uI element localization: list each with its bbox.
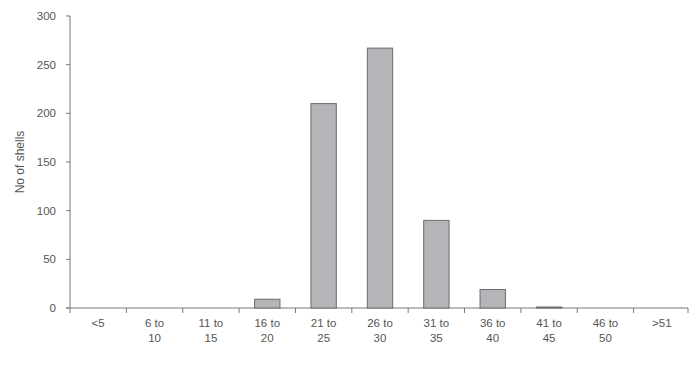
y-tick-label: 50 (43, 253, 56, 265)
x-tick-label: 45 (543, 332, 556, 344)
x-tick-label: 30 (374, 332, 387, 344)
x-tick-label: 10 (148, 332, 161, 344)
y-tick-label: 250 (37, 59, 56, 71)
x-tick-label: 25 (317, 332, 330, 344)
y-axis-title: No of shells (13, 131, 27, 194)
y-tick-label: 0 (50, 302, 56, 314)
x-tick-label: 26 to (367, 317, 393, 329)
y-tick-label: 100 (37, 205, 56, 217)
x-tick-label: 20 (261, 332, 274, 344)
y-tick-label: 300 (37, 10, 56, 22)
bar-26-to-30 (367, 48, 392, 308)
x-tick-label: 16 to (254, 317, 280, 329)
x-tick-label: 6 to (145, 317, 164, 329)
bar-chart: 050100150200250300 <56 to1011 to1516 to2… (0, 0, 690, 371)
bar-36-to-40 (480, 290, 505, 308)
x-tick-label: <5 (92, 317, 105, 329)
x-tick-label: 11 to (199, 317, 224, 329)
x-tick-label: 36 to (480, 317, 506, 329)
x-tick-label: 15 (205, 332, 218, 344)
x-tick-label: 40 (486, 332, 499, 344)
x-tick-label: 46 to (593, 317, 619, 329)
bars (255, 48, 562, 308)
x-tick-label: 41 to (536, 317, 562, 329)
bar-16-to-20 (255, 299, 280, 308)
y-tick-label: 200 (37, 107, 56, 119)
y-tick-label: 150 (37, 156, 56, 168)
x-axis: <56 to1011 to1516 to2021 to2526 to3031 t… (66, 308, 688, 344)
bar-21-to-25 (311, 104, 336, 308)
x-tick-label: 21 to (311, 317, 337, 329)
bar-41-to-45 (536, 307, 561, 308)
x-tick-label: 50 (599, 332, 612, 344)
x-tick-label: >51 (652, 317, 672, 329)
bar-31-to-35 (424, 220, 449, 308)
y-axis: 050100150200250300 (37, 10, 70, 314)
x-tick-label: 35 (430, 332, 443, 344)
x-tick-label: 31 to (424, 317, 450, 329)
